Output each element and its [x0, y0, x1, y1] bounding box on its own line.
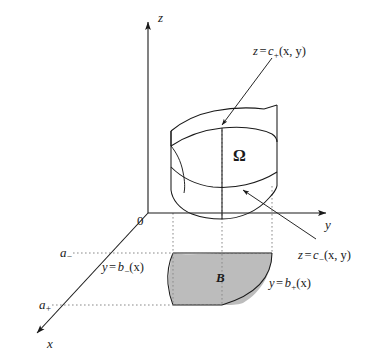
right-boundary-lhs: y	[269, 276, 275, 290]
x-lower-limit-base: a	[60, 245, 67, 260]
left-boundary-fn: b	[118, 260, 124, 274]
lower-surface-equals: =	[303, 248, 313, 262]
lower-surface-label: z=c−(x, y)	[298, 249, 351, 264]
upper-surface-fn: c	[268, 44, 274, 58]
left-boundary-lhs: y	[102, 260, 108, 274]
x-upper-limit-subscript: +	[46, 304, 52, 314]
right-boundary-equals: =	[275, 276, 285, 290]
omega-bottom-front-right	[222, 186, 277, 219]
x-upper-limit-label: a+	[39, 298, 51, 314]
upper-surface-equals: =	[258, 44, 268, 58]
upper-surface-args: (x, y)	[279, 44, 306, 58]
left-boundary-label: y=b−(x)	[102, 261, 144, 276]
lower-surface-args: (x, y)	[324, 248, 351, 262]
left-boundary-args: (x)	[129, 260, 144, 274]
leader-lower-surface	[243, 190, 316, 239]
x-lower-limit-label: a−	[60, 246, 72, 262]
upper-surface-label: z=c+(x, y)	[253, 45, 306, 60]
x-axis-label: x	[47, 337, 53, 350]
omega-label: Ω	[233, 148, 246, 164]
figure-root: z y x 0 Ω B z=c+(x, y) z=c−(x, y) y=b−(x…	[0, 0, 386, 364]
right-boundary-fn: b	[285, 276, 291, 290]
omega-bottom-front-left	[171, 190, 222, 219]
y-axis-label: y	[325, 218, 331, 231]
leader-upper-surface	[222, 58, 272, 125]
x-upper-limit-base: a	[39, 297, 46, 312]
lower-surface-fn: c	[313, 248, 319, 262]
base-region-label: B	[216, 271, 225, 284]
origin-label: 0	[137, 214, 144, 227]
right-boundary-label: y=b+(x)	[269, 277, 311, 292]
right-boundary-args: (x)	[296, 276, 311, 290]
left-boundary-equals: =	[108, 260, 118, 274]
diagram-canvas	[0, 0, 386, 364]
omega-top-near-right-join	[272, 134, 277, 142]
omega-top-back-right	[264, 105, 277, 109]
omega-lower-surface-seam	[171, 167, 277, 187]
x-lower-limit-subscript: −	[67, 252, 73, 262]
z-axis-label: z	[158, 11, 163, 24]
